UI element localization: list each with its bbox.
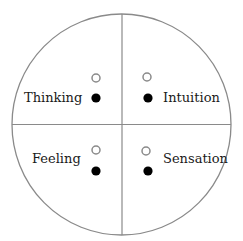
open-dot-icon xyxy=(142,147,150,155)
filled-dot-icon xyxy=(143,166,152,175)
label-feeling: Feeling xyxy=(32,151,81,166)
quadrant-intuition: Intuition xyxy=(143,73,220,105)
function-diagram: Thinking Intuition Feeling Sensation xyxy=(0,0,243,241)
open-dot-icon xyxy=(92,74,100,82)
label-sensation: Sensation xyxy=(163,151,229,166)
open-dot-icon xyxy=(143,73,151,81)
label-thinking: Thinking xyxy=(24,90,82,105)
filled-dot-icon xyxy=(91,166,100,175)
quadrant-feeling: Feeling xyxy=(32,146,101,176)
filled-dot-icon xyxy=(143,93,152,102)
quadrant-thinking: Thinking xyxy=(24,74,101,105)
open-dot-icon xyxy=(92,146,100,154)
filled-dot-icon xyxy=(91,93,100,102)
label-intuition: Intuition xyxy=(163,90,220,105)
quadrant-sensation: Sensation xyxy=(142,147,229,176)
